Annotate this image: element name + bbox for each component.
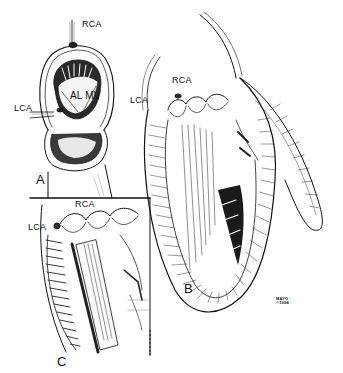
panel-a-valve-label: AL MV bbox=[70, 91, 101, 101]
artist-signature: MAYO ©1994 bbox=[276, 297, 289, 306]
panel-a-letter: A bbox=[36, 173, 45, 186]
panel-b-letter: B bbox=[184, 282, 193, 295]
signature-line-2: ©1994 bbox=[276, 301, 289, 305]
panel-c-lca-label: LCA bbox=[28, 223, 46, 232]
panel-c-rca-label: RCA bbox=[75, 200, 95, 209]
panel-c-drawing bbox=[41, 205, 148, 352]
panel-a-lca-label: LCA bbox=[14, 104, 32, 113]
heart-illustration: RCA LCA AL MV A RCA LCA B RCA LCA C MAYO… bbox=[0, 0, 343, 373]
panel-b-lca-label: LCA bbox=[130, 96, 148, 105]
panel-b-rca-label: RCA bbox=[172, 76, 192, 85]
panel-c-letter: C bbox=[57, 355, 67, 368]
panel-b-drawing bbox=[142, 12, 322, 312]
panel-a-rca-label: RCA bbox=[82, 20, 102, 29]
illustration-drawing bbox=[0, 0, 343, 373]
